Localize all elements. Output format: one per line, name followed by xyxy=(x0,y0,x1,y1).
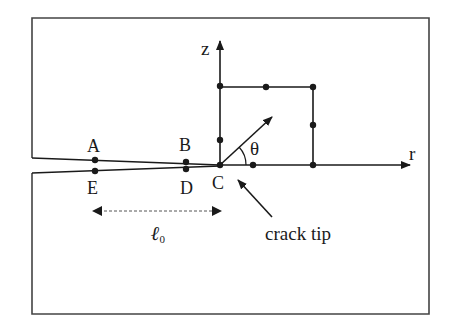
length-arrow-right-icon xyxy=(212,206,222,216)
node-d xyxy=(183,166,189,172)
label-a: A xyxy=(87,136,100,156)
node-r-mid xyxy=(250,162,256,168)
node-box-tr xyxy=(310,84,316,90)
crack-lower-face xyxy=(32,166,220,173)
node-box-rm xyxy=(310,122,316,128)
z-axis-label: z xyxy=(201,38,209,59)
crack-tip-label: crack tip xyxy=(265,223,331,244)
theta-direction-arrow xyxy=(220,117,272,165)
node-box-tm xyxy=(263,84,269,90)
node-box-tl xyxy=(217,83,223,89)
node-a xyxy=(92,157,98,163)
nodes xyxy=(92,83,316,174)
theta-label: θ xyxy=(250,138,259,159)
crack-diagram: z r θ A B C D E ℓ0 crack tip xyxy=(0,0,451,332)
crack-tip-pointer xyxy=(238,180,272,217)
node-z-mid xyxy=(217,137,223,143)
label-d: D xyxy=(180,178,193,198)
crack-upper-face xyxy=(32,158,220,165)
length-arrow-left-icon xyxy=(92,206,102,216)
r-axis-label: r xyxy=(409,143,416,164)
integration-contour xyxy=(220,87,313,165)
specimen-upper-outline xyxy=(32,18,429,314)
label-b: B xyxy=(179,135,191,155)
node-box-br xyxy=(310,162,316,168)
node-e xyxy=(92,168,98,174)
length-label: ℓ0 xyxy=(151,222,166,245)
node-c xyxy=(217,162,223,168)
node-b xyxy=(183,159,189,165)
label-e: E xyxy=(87,178,98,198)
label-c: C xyxy=(212,173,224,193)
theta-arc xyxy=(239,147,246,165)
